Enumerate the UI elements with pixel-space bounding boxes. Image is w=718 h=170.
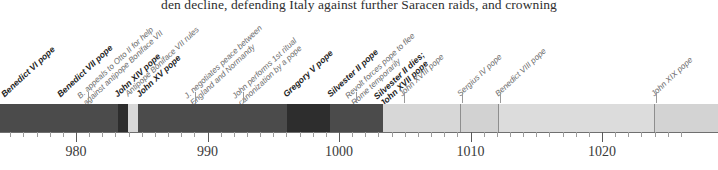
event-leader-line-15	[656, 92, 657, 103]
axis-tick-minor	[23, 132, 24, 137]
document-body-text: den decline, defending Italy against fur…	[0, 0, 718, 13]
timeline-axis: 980990100010101020	[0, 132, 718, 170]
axis-tick-minor	[641, 132, 642, 137]
bar-divider-2	[498, 104, 499, 132]
axis-tick-minor	[273, 132, 274, 137]
axis-tick-minor	[221, 132, 222, 137]
bar-segment-john-xvii-xviii-reign	[383, 104, 460, 132]
timeline-figure: Benedict VI popeBenedict VII popeB. appe…	[0, 18, 718, 170]
axis-tick-minor	[563, 132, 564, 137]
axis-tick-minor	[457, 132, 458, 137]
event-label-14: Benedict VIII pope	[494, 47, 548, 99]
timeline-bar	[0, 104, 718, 132]
axis-tick-minor	[444, 132, 445, 137]
bar-segment-john-xix-reign	[654, 104, 718, 132]
event-leader-line-2	[88, 92, 89, 103]
axis-tick-minor	[50, 132, 51, 137]
axis-tick-minor	[418, 132, 419, 137]
axis-tick-label-980: 980	[66, 144, 87, 160]
axis-tick-minor	[313, 132, 314, 137]
event-label-layer: Benedict VI popeBenedict VII popeB. appe…	[0, 18, 718, 103]
axis-tick-minor	[142, 132, 143, 137]
axis-tick-minor	[129, 132, 130, 137]
axis-tick-minor	[484, 132, 485, 137]
axis-tick-minor	[102, 132, 103, 137]
event-leader-line-10	[356, 92, 357, 103]
axis-tick-label-990: 990	[197, 144, 218, 160]
axis-tick-minor	[300, 132, 301, 137]
axis-tick-minor	[392, 132, 393, 137]
event-leader-line-13	[462, 92, 463, 103]
bar-segment-gregory-v-reign	[287, 104, 330, 132]
axis-tick-major-1010	[471, 132, 472, 142]
axis-tick-minor	[234, 132, 235, 137]
bar-segment-benedict-vi-reign	[0, 104, 118, 132]
axis-tick-minor	[37, 132, 38, 137]
axis-tick-minor	[260, 132, 261, 137]
axis-tick-major-1020	[602, 132, 603, 142]
axis-tick-major-990	[208, 132, 209, 142]
axis-tick-minor	[615, 132, 616, 137]
bar-divider-1	[460, 104, 461, 132]
event-leader-line-6	[195, 92, 196, 103]
event-label-line1: Benedict VIII pope	[493, 46, 548, 98]
axis-tick-minor	[326, 132, 327, 137]
axis-tick-minor	[352, 132, 353, 137]
axis-tick-minor	[523, 132, 524, 137]
axis-tick-minor	[378, 132, 379, 137]
axis-tick-minor	[497, 132, 498, 137]
axis-line	[0, 132, 718, 133]
axis-tick-minor	[431, 132, 432, 137]
axis-tick-minor	[628, 132, 629, 137]
bar-divider-3	[654, 104, 655, 132]
axis-tick-minor	[115, 132, 116, 137]
axis-tick-label-1010: 1010	[457, 144, 485, 160]
axis-tick-minor	[194, 132, 195, 137]
axis-tick-minor	[655, 132, 656, 137]
axis-tick-minor	[89, 132, 90, 137]
bar-segment-antipope-boniface-rule	[118, 104, 128, 132]
axis-tick-minor	[510, 132, 511, 137]
bar-segment-sergius-iv-reign	[460, 104, 498, 132]
axis-tick-minor	[168, 132, 169, 137]
event-leader-line-14	[500, 92, 501, 103]
axis-tick-minor	[549, 132, 550, 137]
bar-segment-john-xiv-highlight	[128, 104, 138, 132]
event-label-line1: Benedict VI pope	[0, 44, 57, 99]
axis-tick-minor	[365, 132, 366, 137]
axis-tick-minor	[668, 132, 669, 137]
axis-tick-label-1000: 1000	[325, 144, 353, 160]
axis-tick-minor	[405, 132, 406, 137]
bar-segment-silvester-ii-reign	[330, 104, 383, 132]
axis-tick-minor	[576, 132, 577, 137]
axis-tick-minor	[63, 132, 64, 137]
axis-tick-major-980	[76, 132, 77, 142]
event-label-0: Benedict VI pope	[0, 45, 57, 99]
axis-tick-label-1020: 1020	[588, 144, 616, 160]
axis-tick-minor	[181, 132, 182, 137]
axis-tick-minor	[10, 132, 11, 137]
axis-tick-minor	[536, 132, 537, 137]
axis-tick-minor	[155, 132, 156, 137]
axis-tick-minor	[247, 132, 248, 137]
axis-tick-major-1000	[339, 132, 340, 142]
bar-segment-john-xv-reign	[138, 104, 287, 132]
axis-tick-minor	[681, 132, 682, 137]
event-leader-line-12	[404, 92, 405, 103]
event-leader-line-7	[243, 92, 244, 103]
axis-tick-minor	[286, 132, 287, 137]
axis-tick-minor	[589, 132, 590, 137]
bar-segment-benedict-viii-reign	[498, 104, 654, 132]
